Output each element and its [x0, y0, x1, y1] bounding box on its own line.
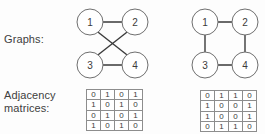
matrix-row: 0 1 0 1 — [87, 90, 143, 100]
adjacency-matrix-left: 0 1 0 1 1 0 1 0 0 1 0 1 1 0 1 0 — [86, 89, 143, 131]
matrix-cell: 0 — [129, 120, 143, 130]
node-1-label: 1 — [87, 17, 93, 28]
matrix-cell: 0 — [101, 100, 115, 110]
matrix-row: 1 0 1 0 — [87, 100, 143, 110]
matrix-row: 1 0 1 0 — [87, 120, 143, 130]
matrix-cell: 0 — [243, 91, 257, 101]
matrix-cell: 0 — [115, 90, 129, 100]
matrix-cell: 0 — [215, 111, 229, 121]
matrix-cell: 1 — [129, 90, 143, 100]
node-4-label: 4 — [132, 60, 138, 71]
matrix-row: 0 1 1 0 — [201, 91, 257, 101]
matrix-cell: 1 — [229, 121, 243, 131]
matrix-cell: 0 — [115, 110, 129, 120]
matrix-cell: 0 — [215, 101, 229, 111]
matrix-cell: 1 — [101, 90, 115, 100]
matrix-cell: 1 — [229, 91, 243, 101]
adjacency-row-label: Adjacency matrices: — [4, 89, 56, 115]
matrix-cell: 0 — [229, 101, 243, 111]
matrix-cell: 1 — [243, 101, 257, 111]
matrix-cell: 1 — [129, 110, 143, 120]
matrix-cell: 0 — [87, 110, 101, 120]
matrix-cell: 0 — [243, 121, 257, 131]
matrix-cell: 1 — [215, 91, 229, 101]
matrix-row: 0 1 1 0 — [201, 121, 257, 131]
node-4-label: 4 — [242, 60, 248, 71]
node-3-label: 3 — [87, 60, 93, 71]
matrix-cell: 1 — [201, 101, 215, 111]
graphs-label-text: Graphs: — [4, 33, 44, 45]
matrix-row: 1 0 0 1 — [201, 101, 257, 111]
matrix-cell: 0 — [87, 90, 101, 100]
matrix-row: 0 1 0 1 — [87, 110, 143, 120]
matrix-cell: 0 — [201, 121, 215, 131]
adjacency-label-line2: matrices: — [4, 102, 56, 115]
node-2-label: 2 — [132, 17, 138, 28]
matrix-cell: 1 — [115, 100, 129, 110]
matrix-row: 1 0 0 1 — [201, 111, 257, 121]
graph-left: 1 2 3 4 — [70, 0, 162, 85]
matrix-cell: 1 — [101, 110, 115, 120]
matrix-cell: 0 — [229, 111, 243, 121]
graphs-row-label: Graphs: — [4, 33, 44, 46]
figure-canvas: Graphs: Adjacency matrices: 1 2 3 4 — [0, 0, 265, 134]
matrix-cell: 0 — [129, 100, 143, 110]
graph-right-nodes: 1 2 3 4 — [192, 9, 258, 78]
node-3-label: 3 — [202, 60, 208, 71]
matrix-cell: 0 — [101, 120, 115, 130]
matrix-cell: 1 — [201, 111, 215, 121]
adjacency-label-line1: Adjacency — [4, 89, 56, 101]
matrix-cell: 1 — [243, 111, 257, 121]
graph-right: 1 2 3 4 — [186, 0, 265, 85]
node-1-label: 1 — [202, 17, 208, 28]
matrix-cell: 1 — [87, 100, 101, 110]
graph-left-edges — [99, 22, 127, 65]
adjacency-matrix-right: 0 1 1 0 1 0 0 1 1 0 0 1 0 1 1 0 — [200, 90, 257, 132]
matrix-cell: 1 — [215, 121, 229, 131]
matrix-cell: 0 — [201, 91, 215, 101]
node-2-label: 2 — [242, 17, 248, 28]
matrix-cell: 1 — [115, 120, 129, 130]
matrix-cell: 1 — [87, 120, 101, 130]
